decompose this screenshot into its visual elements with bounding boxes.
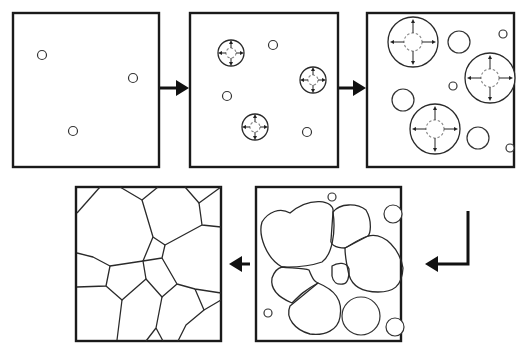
nucleus bbox=[392, 89, 414, 111]
growing-grain bbox=[388, 17, 438, 67]
growing-grain bbox=[300, 67, 326, 93]
growing-grain bbox=[410, 104, 460, 154]
nucleus bbox=[342, 297, 380, 335]
nucleus bbox=[69, 127, 78, 136]
flow-arrow-right-icon bbox=[160, 80, 189, 96]
nucleus bbox=[129, 74, 138, 83]
growing-grain bbox=[242, 114, 268, 140]
nucleus bbox=[449, 82, 457, 90]
nucleus bbox=[328, 193, 336, 201]
nucleus bbox=[264, 309, 272, 317]
stage-4-panel bbox=[256, 187, 404, 341]
nucleus bbox=[506, 144, 514, 152]
stage-1-panel bbox=[13, 13, 159, 167]
nucleus bbox=[223, 92, 232, 101]
nucleus bbox=[467, 127, 489, 149]
nucleus bbox=[38, 51, 47, 60]
growing-grain bbox=[218, 40, 244, 66]
flow-arrow-left-icon bbox=[229, 256, 250, 272]
stage-2-panel bbox=[190, 13, 338, 167]
flow-arrow-elbow-icon bbox=[425, 211, 468, 272]
recrystallization-diagram bbox=[0, 0, 531, 353]
growing-grain bbox=[465, 53, 515, 103]
stage-3-panel bbox=[367, 13, 515, 167]
nucleus bbox=[448, 31, 470, 53]
nucleus bbox=[384, 205, 402, 223]
nucleus bbox=[499, 30, 507, 38]
nucleus bbox=[386, 318, 404, 336]
flow-arrow-right-icon bbox=[339, 80, 366, 96]
nucleus bbox=[303, 128, 312, 137]
stage-5-panel bbox=[76, 187, 221, 341]
nucleus bbox=[269, 41, 278, 50]
